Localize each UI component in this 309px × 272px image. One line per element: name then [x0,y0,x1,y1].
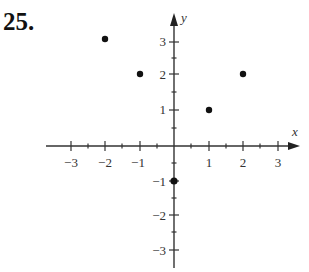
x-tick-label: 3 [275,155,282,170]
point-neg1-2 [137,71,143,77]
point-0-neg1 [170,177,177,184]
y-tick-label: −3 [152,243,166,258]
x-tick-label: 1 [206,155,213,170]
y-axis-arrow-icon [170,13,178,26]
x-axis-arrow-icon [288,142,300,150]
x-tick-label: −3 [64,155,78,170]
x-tick-label: 2 [240,155,247,170]
y-tick-label: −1 [152,174,166,189]
point-neg2-3 [102,36,108,42]
y-tick-label: 1 [160,102,167,117]
point-2-2 [240,71,246,77]
coordinate-plane: −3 −2 −1 1 2 3 3 2 1 −1 −2 −3 x y [0,0,309,272]
x-tick-label: −2 [98,155,112,170]
point-1-1 [206,107,212,113]
y-axis-label: y [179,10,187,25]
x-axis-label: x [291,124,298,139]
y-tick-label: 2 [160,67,167,82]
y-tick-label: −2 [152,208,166,223]
x-tick-label: −1 [131,155,145,170]
y-tick-label: 3 [160,34,167,49]
